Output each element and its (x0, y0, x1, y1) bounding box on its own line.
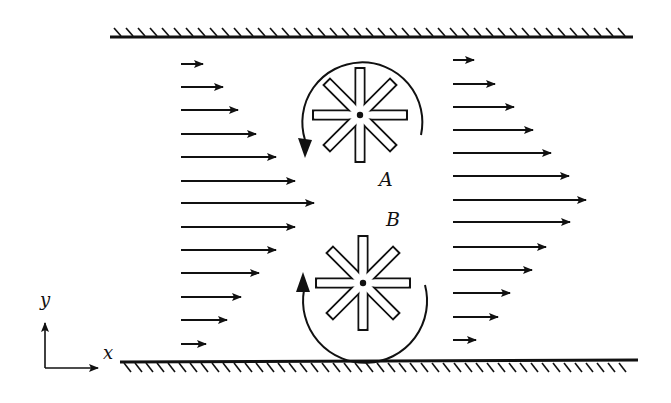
wall-hatch (342, 28, 349, 36)
wall-hatch (146, 363, 153, 372)
wall-hatch (542, 363, 549, 372)
wall-hatch (294, 28, 301, 36)
wall-hatch (258, 28, 265, 36)
wall-hatch (157, 363, 164, 372)
wall-hatch (355, 363, 362, 372)
wall-hatch (474, 28, 481, 36)
wall-hatch (322, 363, 329, 372)
wall-hatch (174, 28, 181, 36)
wall-hatch (531, 363, 538, 372)
wall-hatch (234, 363, 241, 372)
wall-hatch (606, 28, 613, 36)
wall-hatch (486, 28, 493, 36)
wall-hatch (186, 28, 193, 36)
wall-hatch (476, 363, 483, 372)
wall-hatch (267, 363, 274, 372)
wall-hatch (510, 28, 517, 36)
x-axis-label: x (103, 344, 113, 362)
y-axis-label: y (40, 291, 50, 309)
wall-hatch (124, 363, 131, 372)
wall-hatch (619, 363, 626, 372)
paddle-wheel-b (316, 236, 410, 330)
wall-hatch (212, 363, 219, 372)
wall-hatch (450, 28, 457, 36)
wall-hatch (354, 28, 361, 36)
wall-hatch (306, 28, 313, 36)
upstream-velocity-profile (181, 64, 314, 344)
wall-hatch (223, 363, 230, 372)
wall-hatch (414, 28, 421, 36)
wall-hatch (210, 28, 217, 36)
wall-hatch (198, 28, 205, 36)
wheel-a-label: A (379, 170, 393, 189)
wall-hatch (432, 363, 439, 372)
wall-hatch (162, 28, 169, 36)
wall-hatch (330, 28, 337, 36)
wall-hatch (438, 28, 445, 36)
wall-hatch (138, 28, 145, 36)
wall-hatch (462, 28, 469, 36)
wall-hatch (126, 28, 133, 36)
wall-hatch (618, 28, 625, 36)
wall-hatch (546, 28, 553, 36)
wall-hatch (520, 363, 527, 372)
wall-hatch (399, 363, 406, 372)
wall-hatch (135, 363, 142, 372)
paddle-wheels (313, 68, 410, 330)
wall-hatch (168, 363, 175, 372)
wall-hatch (222, 28, 229, 36)
wall-hatch (256, 363, 263, 372)
wall-hatch (487, 363, 494, 372)
wall-hatch (586, 363, 593, 372)
wall-hatch (553, 363, 560, 372)
paddle-wheel-a (313, 68, 407, 162)
wall-hatch (454, 363, 461, 372)
wall-hatch (443, 363, 450, 372)
wall-hatch (377, 363, 384, 372)
wall-hatch (282, 28, 289, 36)
wall-hatch (311, 363, 318, 372)
wall-hatch (246, 28, 253, 36)
wall-hatch (402, 28, 409, 36)
wall-hatch (114, 28, 121, 36)
wall-hatch (575, 363, 582, 372)
wall-hatch (245, 363, 252, 372)
coordinate-axes (45, 323, 98, 368)
wall-hatch (558, 28, 565, 36)
wall-hatch (426, 28, 433, 36)
wall-hatch (608, 363, 615, 372)
wall-hatch (278, 363, 285, 372)
wall-hatch (534, 28, 541, 36)
wall-hatch (378, 28, 385, 36)
wall-hatch (234, 28, 241, 36)
wall-hatch (498, 363, 505, 372)
wall-hatch (421, 363, 428, 372)
wall-hatch (564, 363, 571, 372)
wall-hatch (597, 363, 604, 372)
wall-hatch (344, 363, 351, 372)
wall-hatch (318, 28, 325, 36)
wall-hatch (522, 28, 529, 36)
wall-hatch (509, 363, 516, 372)
wall-hatch (179, 363, 186, 372)
wall-hatch (333, 363, 340, 372)
wall-hatch (498, 28, 505, 36)
wall-hatch (366, 363, 373, 372)
wall-hatch (150, 28, 157, 36)
wall-hatch (201, 363, 208, 372)
wall-hatch (300, 363, 307, 372)
wall-hatch (465, 363, 472, 372)
wall-hatch (366, 28, 373, 36)
wheel-hub (357, 112, 363, 118)
wall-hatch (410, 363, 417, 372)
wall-hatch (594, 28, 601, 36)
wheel-hub (360, 280, 366, 286)
wheel-b-label: B (386, 210, 400, 229)
wall-hatch (570, 28, 577, 36)
wall-hatch (390, 28, 397, 36)
channel-flow-diagram (0, 0, 671, 403)
wall-hatch (190, 363, 197, 372)
wall-hatch (582, 28, 589, 36)
wall-hatch (289, 363, 296, 372)
wall-hatch (270, 28, 277, 36)
